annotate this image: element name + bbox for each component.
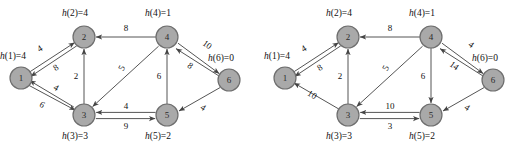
figure-caption: [0, 146, 529, 157]
edge-weight: 2: [74, 72, 79, 81]
edge-weight: 8: [124, 24, 129, 33]
edge-4-3: [93, 46, 159, 106]
edge-weight: 8: [388, 24, 393, 33]
heuristic-label-5: h(5)=2: [145, 132, 171, 142]
edge-weight: 4: [124, 102, 129, 111]
node-number-4: 4: [165, 33, 170, 42]
graph-right: 1 2 3 4 5 6 h(1)=4 h(2)=4 h(3)=3 h(4)=1 …: [264, 0, 529, 157]
node-number-1: 1: [19, 74, 24, 83]
graph-left: 1 2 3 4 5 6 h(1)=4 h(2)=4 h(3)=3 h(4)=1 …: [0, 0, 265, 157]
graph-right-edges: [264, 0, 529, 157]
edge-3-1: [30, 81, 74, 107]
node-number-6: 6: [491, 76, 496, 85]
heuristic-label-1: h(1)=4: [0, 52, 26, 62]
node-number-2: 2: [346, 33, 351, 42]
edge-weight: 9: [124, 122, 129, 131]
edge-weight: 10: [386, 102, 395, 111]
node-number-1: 1: [283, 74, 288, 83]
node-number-4: 4: [429, 33, 434, 42]
heuristic-label-6: h(6)=0: [472, 54, 498, 64]
graph-figure: 1 2 3 4 5 6 h(1)=4 h(2)=4 h(3)=3 h(4)=1 …: [0, 0, 529, 157]
heuristic-label-3: h(3)=3: [62, 132, 88, 142]
edge-weight: 6: [157, 72, 162, 81]
node-number-3: 3: [346, 111, 351, 120]
graph-left-edges: [0, 0, 265, 157]
edge-weight: 2: [338, 72, 343, 81]
node-number-6: 6: [227, 76, 232, 85]
heuristic-label-5: h(5)=2: [409, 132, 435, 142]
heuristic-label-2: h(2)=4: [62, 9, 88, 19]
edge-4-3: [357, 46, 423, 106]
heuristic-label-4: h(4)=1: [145, 9, 171, 19]
heuristic-label-1: h(1)=4: [264, 52, 290, 62]
heuristic-label-6: h(6)=0: [208, 54, 234, 64]
heuristic-label-3: h(3)=3: [326, 132, 352, 142]
node-number-2: 2: [82, 33, 87, 42]
node-number-5: 5: [429, 111, 434, 120]
edge-weight: 3: [388, 122, 393, 131]
heuristic-label-4: h(4)=1: [409, 9, 435, 19]
heuristic-label-2: h(2)=4: [326, 9, 352, 19]
node-number-5: 5: [165, 111, 170, 120]
edge-weight: 6: [421, 72, 426, 81]
node-number-3: 3: [82, 111, 87, 120]
